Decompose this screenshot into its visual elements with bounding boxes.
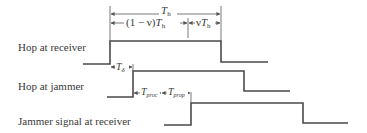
timing-diagram: Th (1 − ν)Th νTh Tδ Tproc Tprop [0, 0, 367, 133]
waveform-hop-at-receiver [83, 41, 268, 64]
label-1-minus-v-th: (1 − ν)Th [126, 16, 166, 30]
waveform-jammer-signal [164, 103, 348, 125]
